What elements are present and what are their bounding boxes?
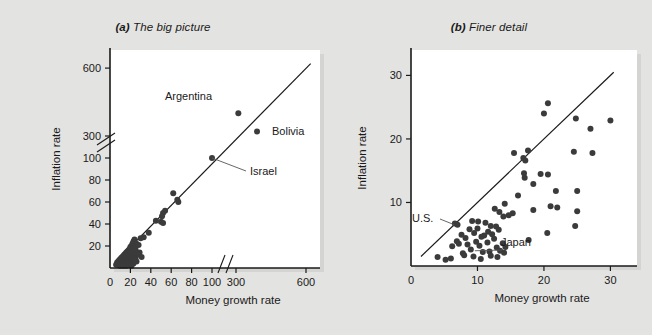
- panel-b-plot: 0102030102030Money growth rateInflation …: [326, 0, 652, 335]
- svg-text:20: 20: [538, 274, 550, 286]
- svg-text:100: 100: [203, 276, 221, 288]
- svg-text:Bolivia: Bolivia: [272, 125, 305, 137]
- svg-text:60: 60: [89, 196, 101, 208]
- svg-text:100: 100: [83, 152, 101, 164]
- svg-text:80: 80: [185, 276, 197, 288]
- svg-text:20: 20: [124, 276, 136, 288]
- svg-text:300: 300: [227, 276, 245, 288]
- svg-text:300: 300: [83, 130, 101, 142]
- svg-text:0: 0: [408, 274, 414, 286]
- svg-text:80: 80: [89, 174, 101, 186]
- panel-b-finer-detail: (b) Finer detail 0102030102030Money grow…: [326, 0, 652, 335]
- panel-a-big-picture: (a) The big picture 02040608010030060020…: [0, 0, 326, 335]
- svg-text:Inflation rate: Inflation rate: [356, 126, 368, 189]
- svg-text:600: 600: [297, 276, 315, 288]
- svg-text:20: 20: [89, 240, 101, 252]
- svg-text:Money growth rate: Money growth rate: [494, 292, 589, 304]
- svg-text:Argentina: Argentina: [165, 90, 213, 102]
- svg-text:30: 30: [604, 274, 616, 286]
- svg-text:Israel: Israel: [250, 165, 277, 177]
- svg-text:30: 30: [390, 69, 402, 81]
- svg-text:Japan: Japan: [501, 236, 531, 248]
- svg-text:40: 40: [89, 218, 101, 230]
- svg-text:60: 60: [165, 276, 177, 288]
- panel-a-plot: 02040608010030060020406080100300600Money…: [0, 0, 326, 335]
- svg-text:10: 10: [390, 196, 402, 208]
- svg-text:0: 0: [107, 276, 113, 288]
- svg-text:20: 20: [390, 133, 402, 145]
- svg-text:U.S.: U.S.: [412, 212, 433, 224]
- svg-text:Inflation rate: Inflation rate: [50, 127, 62, 190]
- svg-text:Money growth rate: Money growth rate: [185, 294, 280, 306]
- svg-text:10: 10: [471, 274, 483, 286]
- svg-text:600: 600: [83, 62, 101, 74]
- svg-text:40: 40: [145, 276, 157, 288]
- figure-container: (a) The big picture 02040608010030060020…: [0, 0, 652, 335]
